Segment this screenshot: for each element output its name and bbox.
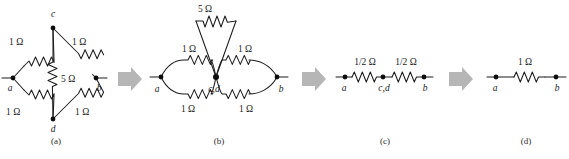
node-a (343, 75, 348, 80)
arrow-a-to-b (118, 67, 142, 91)
resistor-b-right-top (216, 55, 277, 77)
panel-c: 1/2 Ω 1/2 Ω a c,d b (336, 57, 433, 93)
node-d (51, 117, 56, 122)
clipped-text-row (0, 152, 569, 159)
label-r-db: 1 Ω (75, 107, 89, 117)
label-b-right-bottom: 1 Ω (239, 104, 253, 114)
label-b-left-bottom: 1 Ω (181, 104, 195, 114)
resistor-cd-bridge (48, 28, 57, 119)
node-a (494, 75, 499, 80)
node-label-d: d (51, 124, 56, 134)
label-b-right-top: 1 Ω (238, 44, 252, 54)
node-label-c: c (51, 9, 56, 19)
resistor-c-left (345, 72, 383, 82)
node-label-b: b (97, 83, 102, 93)
label-c-left: 1/2 Ω (354, 57, 376, 67)
label-r-ac: 1 Ω (9, 37, 23, 47)
node-label-b: b (279, 84, 284, 94)
node-label-a: a (155, 84, 160, 94)
node-label-b: b (555, 83, 560, 93)
node-b (275, 75, 280, 80)
label-c-right: 1/2 Ω (395, 57, 417, 67)
circuit-simplification-figure: 1 Ω 1 Ω 1 Ω 1 Ω 5 Ω c d a b (0, 0, 569, 159)
resistor-b-right-bottom (216, 77, 277, 99)
node-a (11, 76, 16, 81)
caption-panel-c: (c) (365, 136, 405, 146)
label-r-ad: 1 Ω (6, 107, 20, 117)
panel-a: 1 Ω 1 Ω 1 Ω 1 Ω 5 Ω c d a b (2, 9, 107, 134)
resistor-cb (53, 28, 104, 78)
node-cd (381, 75, 386, 80)
arrow-b-to-c (302, 67, 326, 91)
panel-b: 5 Ω 1 Ω 1 Ω 1 Ω 1 Ω a b c,d (150, 4, 288, 114)
node-label-a: a (493, 83, 498, 93)
node-cd (213, 74, 219, 80)
clipped-text-glyphs (0, 152, 100, 159)
node-label-a: a (8, 83, 13, 93)
label-d-value: 1 Ω (518, 57, 532, 67)
resistor-loop-5ohm (196, 16, 236, 77)
label-b-left-top: 1 Ω (182, 44, 196, 54)
panel-d: 1 Ω a b (487, 57, 566, 93)
node-c (51, 26, 56, 31)
caption-panel-b: (b) (199, 136, 239, 146)
label-r-cd: 5 Ω (61, 74, 75, 84)
resistor-c-right (383, 72, 424, 82)
label-r-cb: 1 Ω (72, 37, 86, 47)
resistor-d-equivalent (496, 72, 556, 82)
node-b (94, 76, 99, 81)
node-label-cd: c,d (378, 83, 390, 93)
node-label-a: a (342, 83, 347, 93)
label-loop-5ohm: 5 Ω (198, 4, 212, 14)
figure-canvas: 1 Ω 1 Ω 1 Ω 1 Ω 5 Ω c d a b (0, 0, 569, 159)
resistor-b-left-top (161, 55, 216, 77)
caption-panel-d: (d) (506, 136, 546, 146)
node-b (422, 75, 427, 80)
arrow-c-to-d (449, 67, 473, 91)
node-a (159, 75, 164, 80)
caption-panel-a: (a) (36, 136, 76, 146)
node-b (554, 75, 559, 80)
resistor-ac (13, 28, 54, 78)
node-label-b: b (423, 83, 428, 93)
node-label-cd: c,d (208, 84, 220, 94)
